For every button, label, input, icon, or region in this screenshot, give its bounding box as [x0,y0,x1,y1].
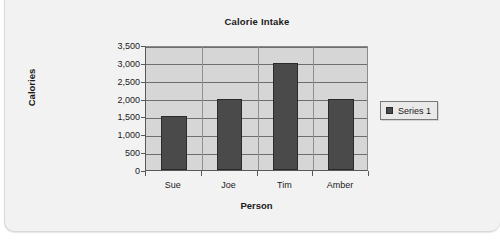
x-axis-tick-mark [257,171,258,176]
x-axis-tick-mark [201,171,202,176]
plot-area [145,46,368,171]
x-axis-tick-label-amber: Amber [312,180,368,190]
bar-sue[interactable] [161,116,187,170]
y-axis-tick-mark [141,82,145,83]
x-axis-tick-mark [368,171,369,176]
bar-joe[interactable] [217,99,243,170]
y-axis-tick-label: 0 [94,166,140,176]
y-axis-tick-label: 2,500 [94,77,140,87]
legend-label-series-1: Series 1 [398,106,431,116]
y-axis-title: Calories [26,33,37,143]
y-axis-tick-mark [141,46,145,47]
y-axis-tick-label: 2,000 [94,95,140,105]
y-axis-tick-mark [141,100,145,101]
y-axis-tick-label: 3,500 [94,41,140,51]
y-axis-tick-label: 3,000 [94,59,140,69]
x-axis-tick-label-tim: Tim [257,180,313,190]
bar-tim[interactable] [273,63,299,170]
bar-amber[interactable] [328,99,354,170]
x-axis-tick-label-sue: Sue [145,180,201,190]
y-axis-tick-label: 1,500 [94,112,140,122]
y-axis-tick-mark [141,135,145,136]
legend-swatch-series-1 [386,107,393,114]
x-axis-tick-label-joe: Joe [201,180,257,190]
x-axis-tick-mark [312,171,313,176]
chart-title: Calorie Intake [145,16,369,27]
y-axis-tick-mark [141,117,145,118]
bar-group [146,47,367,170]
chart-legend[interactable]: Series 1 [380,101,438,120]
x-axis-tick-mark [145,171,146,176]
y-axis-tick-mark [141,153,145,154]
y-axis-tick-labels: 05001,0001,5002,0002,5003,0003,500 [90,46,140,171]
y-axis-tick-label: 500 [94,148,140,158]
y-axis-tick-mark [141,64,145,65]
y-axis-tick-label: 1,000 [94,130,140,140]
x-axis-title: Person [145,200,368,211]
